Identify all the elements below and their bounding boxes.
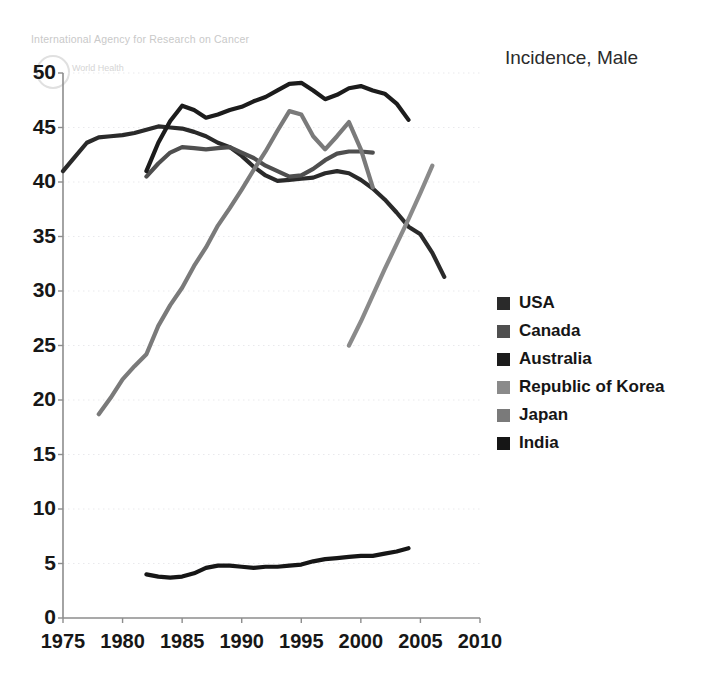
- legend-item-republic-of-korea[interactable]: Republic of Korea: [497, 373, 697, 401]
- legend-swatch-icon: [497, 409, 510, 422]
- legend-swatch-icon: [497, 353, 510, 366]
- y-tick-label: 15: [6, 442, 56, 466]
- y-tick-label: 30: [6, 278, 56, 302]
- x-tick-label: 2010: [445, 630, 515, 653]
- chart-title: Incidence, Male: [505, 47, 638, 69]
- y-tick-label: 40: [6, 169, 56, 193]
- watermark-org-text: World Health: [72, 63, 124, 73]
- chart-legend: USACanadaAustraliaRepublic of KoreaJapan…: [497, 289, 697, 457]
- legend-item-australia[interactable]: Australia: [497, 345, 697, 373]
- legend-item-usa[interactable]: USA: [497, 289, 697, 317]
- legend-swatch-icon: [497, 437, 510, 450]
- plot-svg: [63, 73, 480, 618]
- legend-swatch-icon: [497, 325, 510, 338]
- legend-swatch-icon: [497, 381, 510, 394]
- gridlines: [63, 73, 480, 564]
- legend-item-japan[interactable]: Japan: [497, 401, 697, 429]
- y-tick-label: 10: [6, 496, 56, 520]
- legend-item-india[interactable]: India: [497, 429, 697, 457]
- incidence-male-line-chart: International Agency for Research on Can…: [0, 0, 711, 692]
- y-tick-label: 45: [6, 115, 56, 139]
- series-line-india: [146, 548, 408, 577]
- legend-item-canada[interactable]: Canada: [497, 317, 697, 345]
- y-tick-label: 5: [6, 551, 56, 575]
- y-tick-label: 0: [6, 605, 56, 629]
- plot-area: [63, 73, 480, 618]
- legend-item-label: USA: [519, 293, 555, 313]
- y-tick-label: 35: [6, 224, 56, 248]
- y-tick-label: 20: [6, 387, 56, 411]
- legend-item-label: Japan: [519, 405, 568, 425]
- legend-item-label: India: [519, 433, 559, 453]
- series-lines: [63, 83, 444, 578]
- legend-item-label: Republic of Korea: [519, 377, 664, 397]
- y-tick-label: 25: [6, 333, 56, 357]
- series-line-usa: [63, 126, 444, 276]
- legend-item-label: Australia: [519, 349, 592, 369]
- legend-item-label: Canada: [519, 321, 580, 341]
- axis-ticks: [58, 73, 480, 623]
- legend-swatch-icon: [497, 297, 510, 310]
- y-tick-label: 50: [6, 60, 56, 84]
- series-line-republic-of-korea: [349, 166, 432, 346]
- axis-lines: [63, 73, 480, 618]
- watermark-agency-text: International Agency for Research on Can…: [31, 33, 249, 45]
